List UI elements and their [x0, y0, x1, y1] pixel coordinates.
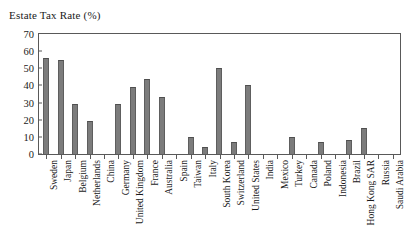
x-axis-category-label: Brazil — [353, 160, 363, 183]
x-axis-category-label: Australia — [165, 160, 175, 195]
chart-title: Estate Tax Rate (%) — [9, 9, 101, 21]
bar — [361, 128, 367, 154]
x-axis-tick-mark — [46, 155, 47, 159]
bar-slot — [126, 34, 140, 154]
y-axis-tick-label: 60 — [24, 46, 35, 57]
x-axis-category-label: Belgium — [79, 160, 89, 193]
bar — [144, 79, 150, 154]
x-axis-tick-mark — [118, 155, 119, 159]
bar-slot — [371, 34, 385, 154]
bar-slot — [256, 34, 270, 154]
bar-slot — [39, 34, 53, 154]
x-axis-category-label: Sweden — [50, 160, 60, 190]
x-axis-category-label: South Korea — [223, 160, 233, 208]
estate-tax-rate-bar-chart: Estate Tax Rate (%) 010203040506070 Swed… — [0, 0, 413, 252]
x-axis-category-label: Switzerland — [237, 160, 247, 205]
bar-slot — [198, 34, 212, 154]
x-axis-category-label: Russia — [382, 160, 392, 185]
x-axis-tick-mark — [162, 155, 163, 159]
x-axis-category-label: Japan — [64, 160, 74, 182]
y-axis-tick-label: 50 — [24, 63, 35, 74]
bar-slot — [328, 34, 342, 154]
bar — [346, 140, 352, 154]
x-axis-category-label: Turkey — [295, 160, 305, 187]
x-axis-tick-mark — [75, 155, 76, 159]
bar — [289, 137, 295, 154]
bar — [43, 58, 49, 154]
x-axis-category-label: France — [151, 160, 161, 186]
bar-slot — [357, 34, 371, 154]
x-axis-category-label: United Kingdom — [136, 160, 146, 224]
x-axis-tick-mark — [191, 155, 192, 159]
bar — [202, 147, 208, 154]
bar — [87, 121, 93, 154]
x-axis-tick-mark — [378, 155, 379, 159]
bar — [188, 137, 194, 154]
x-axis-category-label: Netherlands — [93, 160, 103, 206]
x-axis-category-label: Poland — [324, 160, 334, 186]
x-axis-tick-mark — [176, 155, 177, 159]
bar-slot — [270, 34, 284, 154]
bar — [318, 142, 324, 154]
x-axis-labels: SwedenJapanBelgiumNetherlandsChinaGerman… — [39, 160, 400, 250]
bar-slot — [342, 34, 356, 154]
x-axis-tick-mark — [104, 155, 105, 159]
bar-slot — [212, 34, 226, 154]
x-axis-category-label: Saudi Arabia — [396, 160, 406, 209]
y-axis-tick-label: 40 — [24, 80, 35, 91]
x-axis-category-label: Taiwan — [194, 160, 204, 188]
x-axis-tick-mark — [220, 155, 221, 159]
bar-slot — [97, 34, 111, 154]
bar — [58, 60, 64, 154]
y-axis-tick-label: 70 — [24, 29, 35, 40]
x-axis-category-label: China — [107, 160, 117, 183]
bar-slot — [386, 34, 400, 154]
x-axis-category-label: Canada — [310, 160, 320, 189]
bar-slot — [299, 34, 313, 154]
y-axis: 010203040506070 — [0, 33, 34, 155]
x-axis-tick-mark — [393, 155, 394, 159]
bar-slot — [313, 34, 327, 154]
bar-slot — [169, 34, 183, 154]
x-axis-tick-mark — [306, 155, 307, 159]
y-axis-tick-label: 0 — [29, 149, 34, 160]
bar — [159, 97, 165, 154]
x-axis-tick-mark — [147, 155, 148, 159]
x-axis-category-label: Mexico — [281, 160, 291, 189]
x-axis-tick-mark — [263, 155, 264, 159]
x-axis-tick-mark — [61, 155, 62, 159]
x-axis-tick-mark — [335, 155, 336, 159]
bar-slot — [183, 34, 197, 154]
bar — [216, 68, 222, 154]
bar-slot — [241, 34, 255, 154]
x-axis-tick-mark — [349, 155, 350, 159]
x-axis-tick-mark — [248, 155, 249, 159]
x-axis-category-label: Spain — [180, 160, 190, 182]
bar-slot — [284, 34, 298, 154]
bar — [115, 104, 121, 154]
bar — [130, 87, 136, 154]
x-axis-tick-mark — [234, 155, 235, 159]
bars-layer — [39, 34, 400, 154]
y-axis-tick-label: 20 — [24, 114, 35, 125]
bar-slot — [227, 34, 241, 154]
x-axis-tick-mark — [321, 155, 322, 159]
x-axis-category-label: Italy — [209, 160, 219, 177]
bar — [72, 104, 78, 154]
bar — [245, 85, 251, 154]
y-axis-tick-label: 10 — [24, 131, 35, 142]
bar-slot — [53, 34, 67, 154]
x-axis-tick-mark — [292, 155, 293, 159]
bar-slot — [155, 34, 169, 154]
x-axis-tick-mark — [90, 155, 91, 159]
x-axis-category-label: Hong Kong SAR — [367, 160, 377, 225]
x-axis-category-label: United States — [252, 160, 262, 211]
x-axis-category-label: India — [266, 160, 276, 180]
x-axis-tick-mark — [364, 155, 365, 159]
x-axis-tick-mark — [133, 155, 134, 159]
bar-slot — [140, 34, 154, 154]
x-axis-tick-mark — [277, 155, 278, 159]
bar — [231, 142, 237, 154]
x-axis-tick-mark — [205, 155, 206, 159]
bar-slot — [68, 34, 82, 154]
